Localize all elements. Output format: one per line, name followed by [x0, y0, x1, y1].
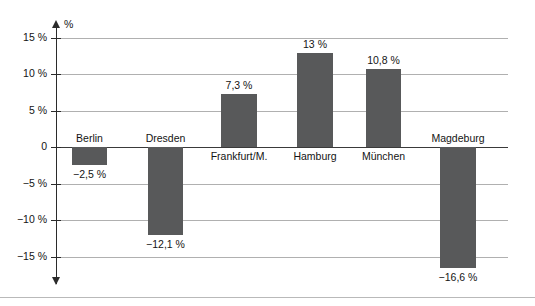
bar-chart: % 15 % 10 % 5 % 0 −5 % −10 % −15 % −2,5 …: [0, 0, 535, 306]
y-tick-minus-5: [51, 184, 61, 185]
y-tick-label-minus-5: −5 %: [3, 178, 47, 189]
bar-value-label-dresden: −12,1 %: [126, 238, 206, 250]
y-tick-5: [51, 111, 61, 112]
y-tick-0: [51, 147, 61, 148]
gridline-5: [56, 111, 508, 112]
y-tick-10: [51, 74, 61, 75]
category-label-dresden: Dresden: [121, 132, 211, 144]
bar-m-nchen[interactable]: [366, 69, 401, 147]
y-axis-line: [56, 26, 57, 284]
category-label-m-nchen: München: [339, 150, 429, 162]
y-tick-label-15: 15 %: [3, 32, 47, 43]
figure-bottom-rule: [0, 297, 535, 298]
bar-value-label-magdeburg: −16,6 %: [418, 271, 498, 283]
y-tick-label-minus-10: −10 %: [3, 214, 47, 225]
y-tick-15: [51, 38, 61, 39]
bar-value-label-berlin: −2,5 %: [50, 168, 130, 180]
y-axis-arrow-down: [52, 277, 60, 285]
bar-hamburg[interactable]: [297, 53, 333, 147]
y-tick-label-minus-15: −15 %: [3, 251, 47, 262]
category-label-magdeburg: Magdeburg: [413, 132, 503, 144]
bar-value-label-m-nchen: 10,8 %: [344, 54, 424, 66]
bar-magdeburg[interactable]: [440, 147, 476, 268]
bar-value-label-hamburg: 13 %: [275, 38, 355, 50]
y-tick-label-10: 10 %: [3, 68, 47, 79]
y-axis-unit-label: %: [64, 18, 73, 30]
bar-berlin[interactable]: [72, 147, 107, 165]
gridline-10: [56, 74, 508, 75]
y-tick-minus-10: [51, 220, 61, 221]
y-axis-arrow-up: [52, 20, 60, 28]
y-tick-minus-15: [51, 257, 61, 258]
y-tick-label-0: 0: [3, 141, 47, 152]
bar-frankfurt-m[interactable]: [221, 94, 257, 147]
bar-dresden[interactable]: [148, 147, 183, 235]
y-tick-label-5: 5 %: [3, 105, 47, 116]
bar-value-label-frankfurt-m: 7,3 %: [199, 79, 279, 91]
